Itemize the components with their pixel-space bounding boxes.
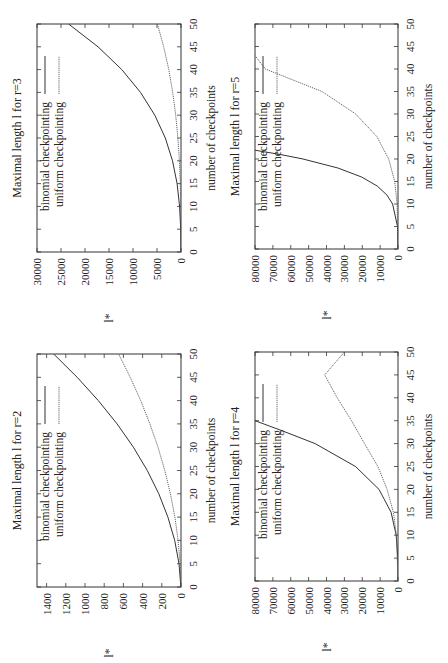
- y-tick-label: 30000: [338, 255, 350, 283]
- x-tick-label: 30: [187, 109, 199, 121]
- y-tick-label: 1000: [79, 593, 91, 616]
- x-tick-label: 0: [187, 249, 199, 255]
- x-tick-label: 25: [187, 465, 199, 477]
- legend-label-binomial: binomial checkpointing: [257, 430, 270, 539]
- chart-panel-r3: 0510152025303540455005000100001500020000…: [10, 18, 218, 322]
- x-tick-label: 10: [404, 198, 416, 210]
- x-axis-title: number of checkpoints: [205, 417, 218, 523]
- x-tick-label: 40: [187, 64, 199, 76]
- x-tick-label: 45: [187, 41, 199, 53]
- x-tick-label: 0: [187, 584, 199, 590]
- x-tick-label: 30: [404, 108, 416, 120]
- y-axis-title: l*: [103, 313, 115, 322]
- x-tick-label: 0: [404, 246, 416, 252]
- x-tick-label: 10: [187, 200, 199, 212]
- x-tick-label: 50: [404, 18, 416, 30]
- y-tick-label: 30000: [338, 587, 350, 615]
- x-tick-label: 45: [404, 41, 416, 53]
- x-tick-label: 10: [187, 534, 199, 546]
- y-tick-label: 20000: [356, 255, 368, 283]
- y-tick-label: 20000: [79, 258, 91, 286]
- y-tick-label: 0: [175, 258, 187, 264]
- uniform-curve: [325, 352, 398, 581]
- y-tick-label: 20000: [356, 587, 368, 615]
- y-tick-label: 80000: [249, 587, 261, 615]
- plot-title: Maximal length l for r=3: [10, 78, 24, 197]
- legend-label-binomial: binomial checkpointing: [257, 102, 270, 211]
- binomial-curve: [54, 354, 181, 587]
- plot-title: Maximal length l for r=4: [228, 407, 242, 526]
- y-tick-label: 50000: [303, 255, 315, 283]
- y-tick-label: 60000: [285, 255, 297, 283]
- x-tick-label: 25: [404, 461, 416, 473]
- legend-label-uniform: uniform checkpointing: [271, 430, 284, 535]
- y-tick-label: 800: [98, 593, 110, 610]
- x-tick-label: 40: [404, 63, 416, 75]
- x-tick-label: 30: [404, 438, 416, 450]
- y-tick-label: 30000: [31, 258, 43, 286]
- y-tick-label: 70000: [267, 587, 279, 615]
- x-axis-title: number of checkpoints: [422, 83, 435, 189]
- y-tick-label: 50000: [303, 587, 315, 615]
- x-tick-label: 40: [404, 392, 416, 404]
- plot-title: Maximal length l for r=5: [228, 77, 242, 196]
- x-tick-label: 35: [187, 418, 199, 430]
- legend: binomial checkpointinguniform checkpoint…: [257, 384, 284, 539]
- x-tick-label: 5: [404, 223, 416, 229]
- y-tick-label: 80000: [249, 255, 261, 283]
- x-axis-title: number of checkpoints: [422, 413, 435, 519]
- y-tick-label: 200: [156, 593, 168, 610]
- legend-label-binomial: binomial checkpointing: [39, 432, 52, 541]
- x-tick-label: 25: [187, 132, 199, 144]
- y-tick-label: 0: [392, 587, 404, 593]
- x-tick-label: 5: [404, 555, 416, 561]
- y-tick-label: 600: [117, 593, 129, 610]
- x-tick-label: 5: [187, 560, 199, 566]
- x-tick-label: 50: [187, 18, 199, 30]
- y-tick-label: 10000: [374, 587, 386, 615]
- y-tick-label: 1400: [41, 593, 53, 616]
- y-axis-title: l*: [321, 310, 333, 319]
- y-tick-label: 60000: [285, 587, 297, 615]
- y-tick-label: 0: [392, 255, 404, 261]
- x-tick-label: 10: [404, 529, 416, 541]
- x-tick-label: 45: [187, 371, 199, 383]
- uniform-curve: [157, 24, 181, 252]
- binomial-curve: [69, 24, 181, 252]
- x-tick-label: 40: [187, 395, 199, 407]
- y-tick-label: 10000: [127, 258, 139, 286]
- legend-label-uniform: uniform checkpointing: [271, 102, 284, 207]
- x-tick-label: 35: [404, 86, 416, 98]
- y-tick-label: 0: [175, 593, 187, 599]
- x-tick-label: 35: [404, 415, 416, 427]
- x-tick-label: 20: [404, 153, 416, 165]
- legend: binomial checkpointinguniform checkpoint…: [39, 56, 66, 211]
- x-tick-label: 20: [404, 483, 416, 495]
- x-tick-label: 50: [404, 346, 416, 358]
- x-tick-label: 50: [187, 348, 199, 360]
- chart-panel-r5: 0510152025303540455001000020000300004000…: [228, 18, 435, 319]
- y-tick-label: 70000: [267, 255, 279, 283]
- figure: 0510152025303540455005000100001500020000…: [0, 0, 448, 663]
- x-tick-label: 15: [404, 506, 416, 518]
- y-tick-label: 1200: [60, 593, 72, 616]
- chart-panel-r4: 0510152025303540455001000020000300004000…: [228, 346, 435, 651]
- x-tick-label: 25: [404, 131, 416, 143]
- uniform-curve: [119, 354, 181, 587]
- y-tick-label: 40000: [321, 587, 333, 615]
- x-tick-label: 15: [404, 176, 416, 188]
- legend: binomial checkpointinguniform checkpoint…: [39, 386, 66, 541]
- y-axis-title: l*: [103, 648, 115, 657]
- y-tick-label: 10000: [374, 255, 386, 283]
- x-tick-label: 15: [187, 178, 199, 190]
- x-tick-label: 20: [187, 155, 199, 167]
- x-axis-title: number of checkpoints: [205, 85, 218, 191]
- chart-panel-r2: 0510152025303540455002004006008001000120…: [10, 348, 218, 657]
- legend-label-uniform: uniform checkpointing: [53, 432, 66, 537]
- x-tick-label: 35: [187, 86, 199, 98]
- y-axis-title: l*: [321, 642, 333, 651]
- x-tick-label: 15: [187, 511, 199, 523]
- x-tick-label: 5: [187, 226, 199, 232]
- y-tick-label: 400: [137, 593, 149, 610]
- x-tick-label: 30: [187, 441, 199, 453]
